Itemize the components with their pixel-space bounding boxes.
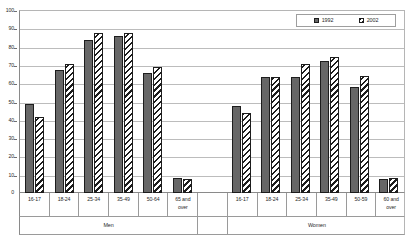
bar-men-16-17-1992[interactable] <box>25 104 34 193</box>
bar-women-60-and-over-1992[interactable] <box>379 179 388 193</box>
bar-men-50-64-2002[interactable] <box>153 67 162 193</box>
category-label: 18-24 <box>58 196 71 204</box>
legend: 1992 2002 <box>296 14 396 27</box>
y-tick-mark-50 <box>14 103 17 104</box>
category-label: 25-34 <box>87 196 100 204</box>
y-tick-mark-40 <box>14 121 17 122</box>
category-axis-band: 16-1718-2425-3435-4950-6465 and over16-1… <box>19 193 405 217</box>
category-label: 50-59 <box>355 196 368 204</box>
legend-item-1992[interactable]: 1992 <box>314 18 334 24</box>
bar-group <box>138 11 168 193</box>
bar-men-65-and-over-2002[interactable] <box>183 179 192 193</box>
category-label: 65 and over <box>175 196 190 211</box>
group-axis-band: MenWomen <box>19 217 405 235</box>
y-tick-label-100: 100 <box>6 8 14 13</box>
legend-item-2002[interactable]: 2002 <box>359 18 379 24</box>
group-label: Men <box>103 223 113 228</box>
bar-group <box>227 11 257 193</box>
y-tick-label-0: 0 <box>11 190 14 195</box>
category-cell: 35-49 <box>317 193 347 216</box>
bar-group <box>345 11 375 193</box>
bar-chart: 100 90 80 70 60 50 40 30 20 10 0 16-1718… <box>0 0 411 238</box>
bar-group <box>315 11 345 193</box>
bar-men-18-24-1992[interactable] <box>55 70 64 193</box>
category-label: 60 and over <box>384 196 399 211</box>
bars-layer <box>20 11 404 193</box>
bar-men-25-34-2002[interactable] <box>94 33 103 193</box>
bar-men-35-49-2002[interactable] <box>124 33 133 193</box>
y-axis: 100 90 80 70 60 50 40 30 20 10 0 <box>0 10 17 193</box>
y-tick-mark-20 <box>14 157 17 158</box>
bar-group <box>109 11 139 193</box>
bar-women-50-59-1992[interactable] <box>350 87 359 193</box>
category-cell: 18-24 <box>50 193 80 216</box>
legend-label-1992: 1992 <box>322 18 334 23</box>
group-cell: Women <box>228 217 406 234</box>
bar-men-18-24-2002[interactable] <box>65 64 74 193</box>
bar-group <box>79 11 109 193</box>
category-label: 35-49 <box>117 196 130 204</box>
legend-label-2002: 2002 <box>367 18 379 23</box>
category-cell: 65 and over <box>168 193 198 216</box>
bar-women-25-34-1992[interactable] <box>291 77 300 193</box>
bar-women-16-17-1992[interactable] <box>232 106 241 193</box>
bar-men-65-and-over-1992[interactable] <box>173 178 182 193</box>
category-label: 25-34 <box>295 196 308 204</box>
category-cell: 50-64 <box>139 193 169 216</box>
category-cell: 60 and over <box>376 193 406 216</box>
group-label: Women <box>308 223 326 228</box>
y-tick-mark-10 <box>14 176 17 177</box>
group-cell <box>198 217 228 234</box>
category-cell <box>198 193 228 216</box>
bar-men-16-17-2002[interactable] <box>35 117 44 193</box>
category-label: 18-24 <box>265 196 278 204</box>
y-tick-mark-90 <box>14 29 17 30</box>
category-cell: 25-34 <box>287 193 317 216</box>
y-tick-mark-60 <box>14 84 17 85</box>
bar-women-60-and-over-2002[interactable] <box>389 178 398 193</box>
bar-group <box>256 11 286 193</box>
y-tick-mark-30 <box>14 139 17 140</box>
bar-women-18-24-2002[interactable] <box>271 77 280 193</box>
bar-group <box>286 11 316 193</box>
category-cell: 25-34 <box>79 193 109 216</box>
category-cell: 35-49 <box>109 193 139 216</box>
category-cell: 18-24 <box>258 193 288 216</box>
y-tick-mark-80 <box>14 48 17 49</box>
bar-men-25-34-1992[interactable] <box>84 40 93 193</box>
legend-swatch-1992-icon <box>314 18 320 24</box>
y-tick-mark-70 <box>14 66 17 67</box>
category-label: 16-17 <box>236 196 249 204</box>
bar-group <box>168 11 198 193</box>
bar-women-25-34-2002[interactable] <box>301 64 310 193</box>
group-cell: Men <box>20 217 198 234</box>
category-cell: 16-17 <box>20 193 50 216</box>
bar-group <box>20 11 50 193</box>
category-label: 16-17 <box>28 196 41 204</box>
bar-group <box>374 11 404 193</box>
y-tick-mark-100 <box>14 11 17 12</box>
bar-women-18-24-1992[interactable] <box>261 77 270 193</box>
bar-group <box>50 11 80 193</box>
category-label: 50-64 <box>147 196 160 204</box>
legend-swatch-2002-icon <box>359 18 365 24</box>
bar-men-35-49-1992[interactable] <box>114 36 123 193</box>
bar-women-35-49-2002[interactable] <box>330 57 339 194</box>
bar-men-50-64-1992[interactable] <box>143 73 152 193</box>
category-label: 35-49 <box>325 196 338 204</box>
category-cell: 50-59 <box>347 193 377 216</box>
bar-women-35-49-1992[interactable] <box>320 61 329 193</box>
category-cell: 16-17 <box>228 193 258 216</box>
bar-women-50-59-2002[interactable] <box>360 76 369 193</box>
bar-women-16-17-2002[interactable] <box>242 113 251 193</box>
